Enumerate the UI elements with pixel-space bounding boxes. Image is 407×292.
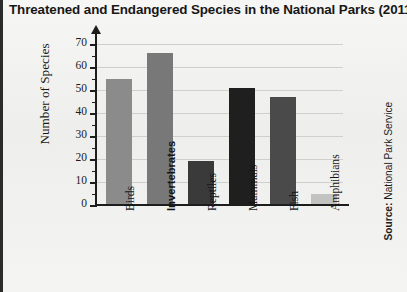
x-tick-label-fish: Fish (288, 191, 301, 211)
x-tick-label-invertebrates: Invertebrates (165, 141, 177, 211)
x-tick-label-birds: Birds (124, 186, 137, 211)
y-tick-minor (92, 79, 97, 80)
y-axis-arrow-icon (91, 25, 101, 34)
gridline (96, 90, 343, 91)
x-tick-label-amphibians: Amphibians (329, 154, 342, 211)
chart-figure: Threatened and Endangered Species in the… (0, 0, 407, 292)
source-prefix: Source: (383, 203, 394, 241)
y-tick-minor (92, 56, 97, 57)
x-tick-label-mammals: Mammals (247, 165, 260, 211)
x-tick-label-reptiles: Reptiles (206, 173, 219, 211)
y-tick-major (90, 113, 97, 115)
gridline (96, 44, 343, 45)
y-tick-major (90, 182, 97, 184)
y-tick-major (90, 67, 97, 69)
y-tick-minor (92, 171, 97, 172)
y-tick-major (90, 136, 97, 138)
y-axis-line (95, 31, 97, 206)
gridline (96, 159, 343, 160)
gridline (96, 113, 343, 114)
y-tick-label: 50 (59, 82, 87, 94)
source-note: Source: National Park Service (383, 71, 394, 241)
y-axis-tick-labels: 010203040506070 (55, 0, 87, 292)
gridline (96, 67, 343, 68)
y-tick-minor (92, 125, 97, 126)
y-tick-major (90, 205, 97, 207)
y-tick-label: 0 (59, 197, 87, 209)
y-tick-minor (92, 102, 97, 103)
y-tick-label: 70 (59, 36, 87, 48)
y-tick-major (90, 44, 97, 46)
source-name: National Park Service (383, 102, 394, 200)
y-tick-label: 60 (59, 59, 87, 71)
y-tick-major (90, 90, 97, 92)
y-tick-minor (92, 148, 97, 149)
y-axis-title: Number of Species (37, 14, 53, 174)
y-tick-label: 20 (59, 151, 87, 163)
plot-area (96, 44, 343, 205)
y-tick-label: 30 (59, 128, 87, 140)
bar-fish (270, 97, 296, 205)
y-tick-label: 10 (59, 174, 87, 186)
gridline (96, 136, 343, 137)
gridline (96, 182, 343, 183)
y-tick-major (90, 159, 97, 161)
y-tick-label: 40 (59, 105, 87, 117)
gridlines (96, 44, 343, 205)
y-tick-minor (92, 194, 97, 195)
